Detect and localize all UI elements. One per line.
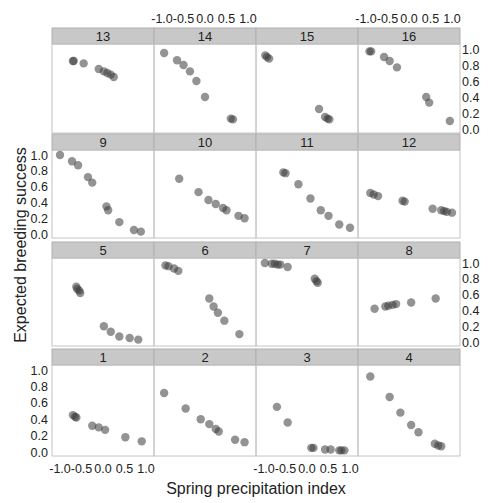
y-tick-label: 0.6 (31, 180, 48, 194)
data-point (396, 408, 404, 416)
x-axis-ticks: -1.0-0.50.00.51.0 (355, 12, 461, 26)
data-point (414, 428, 422, 436)
x-tick-label: 0.0 (196, 12, 213, 26)
strip-label: 15 (300, 29, 314, 44)
panel-frame (256, 258, 358, 346)
data-point (125, 334, 133, 342)
data-point (314, 279, 322, 287)
data-point (231, 436, 239, 444)
strip-label: 9 (99, 135, 106, 150)
y-tick-label: 0.8 (462, 272, 479, 286)
data-point (240, 214, 248, 222)
strip-label: 11 (300, 135, 314, 150)
data-point (425, 98, 433, 106)
data-point (281, 169, 289, 177)
y-tick-label: 0.0 (462, 123, 479, 137)
y-tick-label: 0.2 (462, 107, 479, 121)
data-point (431, 294, 439, 302)
panel-frame (256, 365, 358, 456)
panel-2: 2 (154, 349, 256, 456)
data-point (138, 437, 146, 445)
data-point (306, 194, 314, 202)
panel-7: 7 (256, 242, 358, 346)
x-tick-label: -1.0 (151, 12, 173, 26)
data-point (115, 332, 123, 340)
data-point (324, 212, 332, 220)
x-axis-ticks: -1.0-0.50.00.51.0 (253, 462, 359, 476)
data-point (401, 197, 409, 205)
data-point (240, 438, 248, 446)
data-point (335, 220, 343, 228)
panel-frame (358, 44, 460, 133)
data-point (370, 305, 378, 313)
strip-label: 1 (99, 350, 106, 365)
x-axis-ticks: -1.0-0.50.00.51.0 (49, 462, 155, 476)
data-point (107, 328, 115, 336)
data-point (437, 442, 445, 450)
data-point (110, 73, 118, 81)
panel-frame (52, 150, 154, 238)
data-point (276, 260, 284, 268)
strip-label: 10 (198, 135, 212, 150)
data-point (428, 205, 436, 213)
data-point (179, 61, 187, 69)
y-tick-label: 1.0 (462, 43, 479, 57)
y-tick-label: 0.2 (462, 320, 479, 334)
y-tick-label: 1.0 (31, 149, 48, 163)
y-tick-label: 0.4 (462, 91, 479, 105)
x-tick-label: -0.5 (377, 12, 399, 26)
x-tick-label: 1.0 (137, 462, 154, 476)
y-axis-ticks: 0.00.20.40.60.81.0 (462, 257, 479, 350)
data-point (212, 200, 220, 208)
y-axis-ticks: 0.00.20.40.60.81.0 (31, 149, 48, 242)
x-tick-label: -0.5 (275, 462, 297, 476)
data-point (70, 57, 78, 65)
x-tick-label: 1.0 (239, 12, 256, 26)
x-tick-label: 1.0 (341, 462, 358, 476)
data-point (192, 77, 200, 85)
y-tick-label: 1.0 (31, 364, 48, 378)
panel-frame (52, 44, 154, 133)
data-point (326, 445, 334, 453)
panel-13: 13 (52, 28, 154, 133)
y-tick-label: 0.4 (31, 413, 48, 427)
strip-label: 7 (303, 243, 310, 258)
data-point (235, 330, 243, 338)
data-point (56, 151, 64, 159)
panel-10: 10 (154, 134, 256, 238)
x-tick-label: 0.0 (298, 462, 315, 476)
panel-14: 14 (154, 28, 256, 133)
x-tick-label: -1.0 (253, 462, 275, 476)
panel-12: 12 (358, 134, 460, 238)
data-point (205, 294, 213, 302)
y-tick-label: 1.0 (462, 257, 479, 271)
data-point (283, 263, 291, 271)
data-point (197, 415, 205, 423)
y-tick-label: 0.0 (31, 228, 48, 242)
data-point (175, 175, 183, 183)
data-point (407, 298, 415, 306)
x-tick-label: -0.5 (173, 12, 195, 26)
data-point (201, 93, 209, 101)
strip-label: 8 (405, 243, 412, 258)
y-tick-label: 0.6 (31, 396, 48, 410)
y-axis-ticks: 0.00.20.40.60.81.0 (31, 364, 48, 460)
data-point (134, 335, 142, 343)
x-axis-ticks: -1.0-0.50.00.51.0 (151, 12, 257, 26)
data-point (392, 300, 400, 308)
strip-label: 14 (198, 29, 212, 44)
data-point (74, 161, 82, 169)
x-tick-label: -1.0 (355, 12, 377, 26)
data-point (194, 188, 202, 196)
y-tick-label: 0.8 (462, 59, 479, 73)
panel-9: 9 (52, 134, 154, 238)
data-point (222, 206, 230, 214)
data-point (385, 57, 393, 65)
data-point (214, 309, 222, 317)
data-point (340, 446, 348, 454)
x-tick-label: 0.5 (422, 12, 439, 26)
strip-label: 2 (201, 350, 208, 365)
x-tick-label: -0.5 (71, 462, 93, 476)
strip-label: 3 (303, 350, 310, 365)
data-point (315, 105, 323, 113)
